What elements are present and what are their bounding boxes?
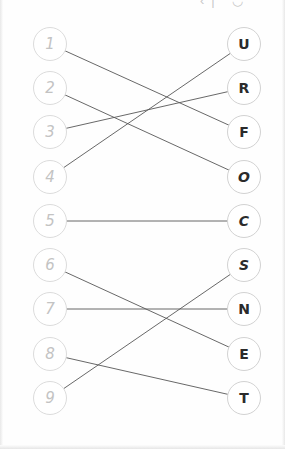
connection-line-1-to-F[interactable]	[65, 51, 228, 125]
connection-line-2-to-O[interactable]	[65, 95, 228, 170]
node-5[interactable]: 5	[33, 204, 67, 238]
node-s[interactable]: S	[227, 248, 261, 282]
node-label: 5	[45, 214, 55, 229]
node-label: 9	[45, 391, 55, 406]
connection-line-6-to-E[interactable]	[65, 272, 228, 347]
matching-exercise-canvas: ‹| ◡ 123456789 URFOCSNET	[0, 0, 285, 449]
node-u[interactable]: U	[227, 27, 261, 61]
node-9[interactable]: 9	[33, 381, 67, 415]
node-label: 2	[45, 81, 55, 96]
node-3[interactable]: 3	[33, 115, 67, 149]
connection-line-group	[64, 51, 230, 394]
node-label: E	[239, 347, 249, 361]
node-e[interactable]: E	[227, 337, 261, 371]
node-2[interactable]: 2	[33, 71, 67, 105]
node-label: S	[239, 258, 249, 272]
node-8[interactable]: 8	[33, 337, 67, 371]
node-label: 8	[45, 347, 55, 362]
node-label: 7	[45, 302, 55, 317]
node-label: F	[239, 125, 249, 139]
node-label: 6	[45, 258, 55, 273]
node-r[interactable]: R	[227, 71, 261, 105]
node-label: N	[238, 302, 250, 316]
node-n[interactable]: N	[227, 292, 261, 326]
node-label: R	[239, 81, 250, 95]
node-t[interactable]: T	[227, 381, 261, 415]
connection-line-8-to-T[interactable]	[67, 358, 228, 394]
node-label: O	[238, 170, 250, 184]
node-7[interactable]: 7	[33, 292, 67, 326]
node-label: 4	[45, 170, 55, 185]
node-label: T	[239, 391, 249, 405]
node-label: U	[238, 37, 249, 51]
node-label: 3	[45, 125, 55, 140]
node-label: 1	[45, 37, 55, 52]
node-4[interactable]: 4	[33, 160, 67, 194]
connection-line-9-to-S[interactable]	[64, 275, 230, 389]
node-c[interactable]: C	[227, 204, 261, 238]
node-1[interactable]: 1	[33, 27, 67, 61]
node-6[interactable]: 6	[33, 248, 67, 282]
connection-line-4-to-U[interactable]	[64, 54, 230, 168]
node-o[interactable]: O	[227, 160, 261, 194]
node-f[interactable]: F	[227, 115, 261, 149]
node-label: C	[239, 214, 249, 228]
